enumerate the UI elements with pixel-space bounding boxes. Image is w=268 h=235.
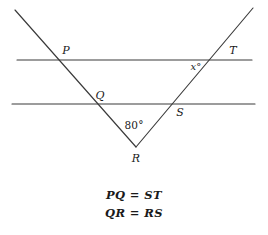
given-equations: PQ = ST QR = RS [0,186,268,222]
point-label-r: R [132,153,140,164]
geometry-figure: P T x° Q S 80° R PQ = ST QR = RS [0,0,268,235]
point-label-q: Q [95,90,104,101]
angle-label-80-degrees: 80° [124,120,143,131]
point-label-p: P [62,45,70,56]
equation-qr-equals-rs: QR = RS [0,204,268,222]
equation-pq-equals-st: PQ = ST [0,186,268,204]
left-ray-through-P-Q-to-R [15,10,136,147]
right-ray-from-R-through-S-T [136,8,253,147]
angle-label-x: x° [190,62,201,72]
point-label-s: S [176,107,184,118]
point-label-t: T [229,45,237,56]
